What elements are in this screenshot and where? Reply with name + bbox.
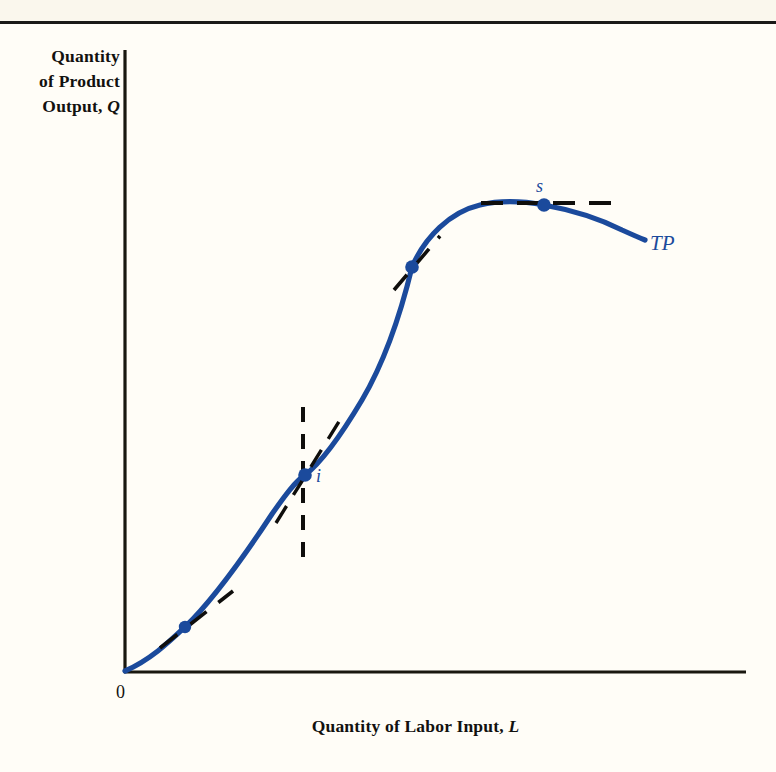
point-marker-early: [179, 621, 191, 633]
y-axis-label: Quantity of Product Output, Q: [0, 44, 120, 119]
x-axis-symbol: L: [508, 716, 519, 736]
origin-label: 0: [116, 682, 125, 703]
y-axis-label-line-3-text: Output,: [42, 96, 102, 116]
x-axis-label-text: Quantity of Labor Input,: [312, 716, 504, 736]
tp-curve: [125, 202, 645, 671]
y-axis-label-line-2: of Product: [0, 69, 120, 94]
tp-curve-label: TP: [650, 231, 675, 256]
tangent-line-early: [160, 591, 233, 648]
point-marker-summit: [537, 198, 551, 212]
y-axis-label-line-1: Quantity: [0, 44, 120, 69]
y-axis-symbol: Q: [107, 96, 120, 116]
point-marker-inflection: [298, 468, 312, 482]
inflection-point-label: i: [316, 466, 321, 487]
point-marker-late: [405, 260, 419, 274]
summit-point-label: s: [536, 176, 543, 197]
x-axis-label: Quantity of Labor Input, L: [0, 716, 776, 737]
figure-container: Quantity of Product Output, Q 0 i s TP Q…: [0, 0, 776, 772]
y-axis-label-line-3: Output, Q: [0, 94, 120, 119]
